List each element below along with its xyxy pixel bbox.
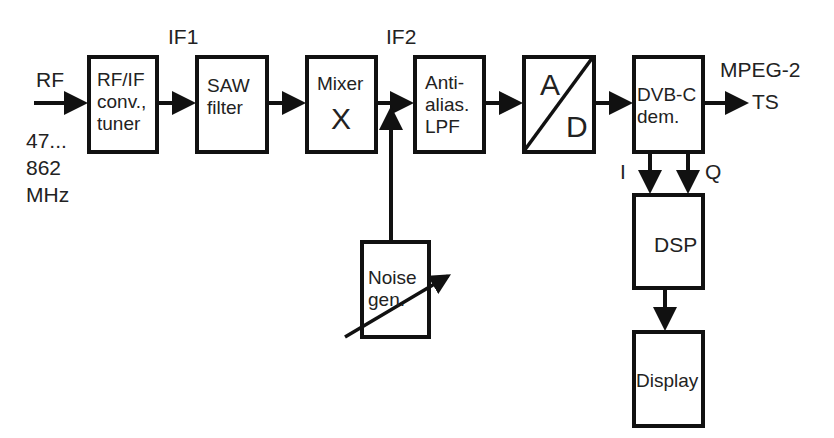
output-label-mpeg: MPEG-2: [720, 58, 801, 81]
adc-block: A D: [522, 55, 596, 154]
dsp-block: DSP: [632, 193, 705, 290]
noise-generator-block: Noise gen.: [360, 240, 431, 339]
rf-range-unit: MHz: [26, 183, 69, 206]
tuner-label-3: tuner: [97, 112, 140, 135]
mixer-block: Mixer X: [305, 55, 378, 154]
lpf-label-2: alias.: [425, 93, 469, 116]
saw-label-1: SAW: [207, 74, 250, 97]
i-channel-label: I: [620, 160, 626, 183]
rf-input-label: RF: [36, 68, 64, 91]
adc-label-d: D: [566, 111, 588, 143]
noise-label-2: gen.: [368, 288, 405, 311]
dvbc-demod-block: DVB-C dem.: [632, 55, 705, 154]
mixer-label: Mixer: [317, 72, 363, 95]
display-label: Display: [636, 369, 698, 392]
mixer-symbol: X: [331, 103, 351, 135]
display-block: Display: [632, 330, 705, 428]
tuner-label-1: RF/IF: [97, 68, 145, 91]
if2-label: IF2: [386, 25, 416, 48]
rf-range-start: 47...: [26, 129, 67, 152]
anti-alias-lpf-block: Anti- alias. LPF: [413, 55, 486, 154]
adc-label-a: A: [540, 69, 560, 101]
q-channel-label: Q: [705, 160, 721, 183]
lpf-label-3: LPF: [425, 115, 460, 138]
output-label-ts: TS: [752, 90, 779, 113]
demod-label-1: DVB-C: [637, 83, 696, 106]
tuner-label-2: conv.,: [97, 90, 146, 113]
dsp-label: DSP: [654, 233, 697, 256]
demod-label-2: dem.: [637, 105, 679, 128]
rf-range-end: 862: [26, 156, 61, 179]
noise-label-1: Noise: [368, 266, 417, 289]
lpf-label-1: Anti-: [425, 71, 464, 94]
saw-label-2: filter: [207, 96, 243, 119]
tuner-block: RF/IF conv., tuner: [87, 55, 159, 154]
if1-label: IF1: [168, 25, 198, 48]
saw-filter-block: SAW filter: [195, 55, 269, 154]
